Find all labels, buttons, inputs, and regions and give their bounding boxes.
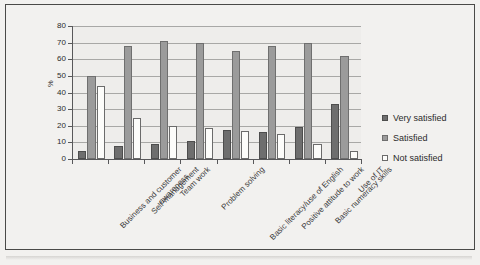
bar-1-1	[124, 46, 132, 159]
y-axis-tick	[68, 76, 72, 77]
bar-0-1	[114, 146, 122, 159]
gridline	[72, 109, 361, 110]
legend-swatch-icon	[382, 115, 388, 121]
legend-item[interactable]: Satisfied	[382, 130, 478, 145]
y-axis-tick-label: 80	[26, 22, 66, 30]
gridline	[72, 93, 361, 94]
y-axis-tick-labels: 80706050403020100	[21, 5, 66, 205]
bar-1-3	[196, 43, 204, 159]
legend-label: Not satisfied	[393, 153, 443, 163]
y-axis-tick	[68, 26, 72, 27]
chart-figure: % 80706050403020100 Very satisfiedSatisf…	[0, 0, 480, 265]
y-axis-tick-label: 70	[26, 39, 66, 47]
page-edge-shadow	[6, 256, 472, 260]
y-axis-tick-label: 0	[26, 155, 66, 163]
bar-2-3	[205, 128, 213, 159]
bar-0-3	[187, 141, 195, 159]
bar-2-2	[169, 126, 177, 159]
y-axis-line	[72, 26, 73, 160]
bar-1-0	[87, 76, 95, 159]
bar-1-2	[160, 41, 168, 159]
y-axis-tick	[68, 43, 72, 44]
bar-2-0	[97, 86, 105, 159]
bar-2-1	[133, 118, 141, 159]
y-axis-tick-label: 50	[26, 72, 66, 80]
x-axis-tick	[180, 160, 181, 164]
bar-1-7	[340, 56, 348, 159]
bar-0-0	[78, 151, 86, 159]
y-axis-tick	[68, 126, 72, 127]
bar-0-4	[223, 130, 231, 159]
bar-0-5	[259, 132, 267, 159]
x-axis-tick	[325, 160, 326, 164]
y-axis-tick-label: 10	[26, 138, 66, 146]
y-axis-tick-label: 20	[26, 122, 66, 130]
chart-legend: Very satisfiedSatisfiedNot satisfied	[382, 110, 478, 170]
bar-0-7	[331, 104, 339, 159]
y-axis-tick	[68, 59, 72, 60]
chart-frame: % 80706050403020100 Very satisfiedSatisf…	[5, 4, 475, 250]
gridline	[72, 59, 361, 60]
legend-label: Satisfied	[393, 133, 428, 143]
x-axis-category-label: Business and customerawareness	[119, 165, 191, 237]
bar-1-5	[268, 46, 276, 159]
bar-2-4	[241, 131, 249, 159]
x-axis-tick	[361, 160, 362, 164]
x-axis-tick	[144, 160, 145, 164]
legend-swatch-icon	[382, 155, 388, 161]
y-axis-tick-label: 40	[26, 89, 66, 97]
y-axis-tick	[68, 142, 72, 143]
y-axis-tick-label: 30	[26, 105, 66, 113]
bar-2-7	[350, 151, 358, 159]
x-axis-category-label: Problem solving	[219, 165, 266, 212]
gridline	[72, 126, 361, 127]
bar-0-6	[295, 127, 303, 159]
legend-swatch-icon	[382, 135, 388, 141]
x-axis-tick	[217, 160, 218, 164]
legend-item[interactable]: Very satisfied	[382, 110, 478, 125]
legend-item[interactable]: Not satisfied	[382, 150, 478, 165]
y-axis-tick	[68, 109, 72, 110]
gridline	[72, 26, 361, 27]
y-axis-tick-label: 60	[26, 55, 66, 63]
plot-area	[72, 26, 361, 159]
bar-2-5	[277, 134, 285, 159]
x-axis-tick	[108, 160, 109, 164]
y-axis-tick	[68, 93, 72, 94]
bar-1-4	[232, 51, 240, 159]
x-axis-tick	[289, 160, 290, 164]
bar-0-2	[151, 144, 159, 159]
x-axis-tick	[72, 160, 73, 164]
gridline	[72, 43, 361, 44]
bar-1-6	[304, 43, 312, 159]
x-axis-tick	[253, 160, 254, 164]
gridline	[72, 76, 361, 77]
bar-2-6	[313, 144, 321, 159]
legend-label: Very satisfied	[393, 113, 447, 123]
